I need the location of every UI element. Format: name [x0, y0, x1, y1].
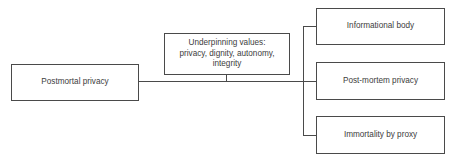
node-underpinning-values-label: Underpinning values: privacy, dignity, a…	[175, 38, 278, 70]
node-postmortal-privacy-label: Postmortal privacy	[37, 77, 112, 88]
node-informational-body-label: Informational body	[343, 21, 418, 32]
node-underpinning-values: Underpinning values: privacy, dignity, a…	[164, 33, 290, 75]
connector-stub-informational-body	[303, 26, 317, 27]
connector-root-to-branches	[139, 81, 304, 82]
node-immortality-by-proxy-label: Immortality by proxy	[340, 130, 421, 141]
connector-stub-immortality-by-proxy	[303, 135, 317, 136]
node-post-mortem-privacy-label: Post-mortem privacy	[339, 76, 422, 87]
connector-stub-post-mortem-privacy	[303, 81, 317, 82]
node-post-mortem-privacy: Post-mortem privacy	[316, 62, 445, 100]
node-postmortal-privacy: Postmortal privacy	[11, 64, 139, 101]
diagram-canvas: Postmortal privacy Underpinning values: …	[0, 0, 455, 162]
node-immortality-by-proxy: Immortality by proxy	[316, 116, 445, 154]
node-informational-body: Informational body	[316, 8, 445, 45]
connector-values-stem	[226, 75, 227, 82]
